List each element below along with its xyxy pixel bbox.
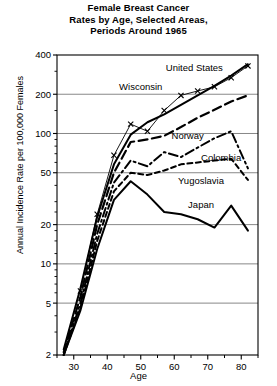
series-line-japan xyxy=(64,181,248,355)
series-label-norway: Norway xyxy=(172,130,204,141)
y-tick-label: 20 xyxy=(40,219,51,230)
x-tick-label: 40 xyxy=(102,361,113,372)
series-label-colombia: Colombia xyxy=(201,152,242,163)
data-series-group xyxy=(64,63,251,355)
x-tick-label: 50 xyxy=(135,361,146,372)
y-tick-label: 5 xyxy=(46,298,51,309)
series-label-wisconsin: Wisconsin xyxy=(119,81,162,92)
y-tick-label: 10 xyxy=(40,258,51,269)
series-label-japan: Japan xyxy=(188,199,214,210)
y-tick-label: 2 xyxy=(46,349,51,360)
y-tick-label: 50 xyxy=(40,167,51,178)
data-point-marker xyxy=(111,153,116,158)
x-tick-label: 70 xyxy=(202,361,213,372)
series-label-yugoslavia: Yugoslavia xyxy=(178,175,225,186)
y-axis-ticks: 40020010050201052 xyxy=(35,49,57,360)
data-point-marker xyxy=(128,122,133,127)
data-point-marker xyxy=(178,93,183,98)
x-tick-label: 30 xyxy=(68,361,79,372)
data-point-marker xyxy=(162,108,167,113)
y-tick-label: 200 xyxy=(35,89,51,100)
x-tick-label: 80 xyxy=(236,361,247,372)
x-tick-label: 60 xyxy=(169,361,180,372)
chart-figure: Female Breast Cancer Rates by Age, Selec… xyxy=(0,0,277,386)
x-axis-ticks: 304050607080 xyxy=(57,355,258,372)
y-tick-label: 400 xyxy=(35,49,51,60)
series-label-united-states: United States xyxy=(166,62,223,73)
chart-canvas: 40020010050201052 304050607080 United St… xyxy=(0,0,277,386)
y-tick-label: 100 xyxy=(35,128,51,139)
